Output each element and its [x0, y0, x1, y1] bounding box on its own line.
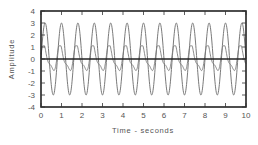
x-tick-label: 7	[182, 111, 187, 120]
x-tick-label: 0	[39, 111, 44, 120]
x-tick-label: 1	[59, 111, 64, 120]
x-tick-label: 10	[242, 111, 251, 120]
y-tick-label: 3	[31, 19, 36, 28]
y-axis-title: Amplitude	[7, 39, 16, 80]
y-tick-label: -2	[28, 79, 36, 88]
y-tick-label: -3	[28, 91, 36, 100]
y-tick-label: 1	[31, 43, 36, 52]
x-tick-label: 5	[141, 111, 146, 120]
x-tick-label: 6	[162, 111, 167, 120]
x-tick-label: 3	[100, 111, 105, 120]
small-waveform	[41, 46, 246, 71]
y-tick-label: -4	[28, 103, 36, 112]
y-tick-label: 4	[31, 7, 36, 16]
x-tick-label: 4	[121, 111, 126, 120]
x-tick-label: 8	[203, 111, 208, 120]
y-tick-label: 2	[31, 31, 36, 40]
x-tick-label: 2	[80, 111, 85, 120]
y-tick-label: -1	[28, 67, 36, 76]
x-axis-title: Time - seconds	[112, 126, 174, 135]
x-tick-label: 9	[223, 111, 228, 120]
y-tick-label: 0	[31, 55, 36, 64]
amplitude-time-chart: 43210-1-2-3-4 012345678910 Time - second…	[0, 0, 258, 145]
